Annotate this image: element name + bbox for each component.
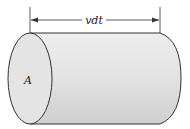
arrowhead-right	[152, 18, 159, 23]
cylinder-body	[30, 33, 181, 124]
length-label: vdt	[85, 14, 103, 27]
arrowhead-left	[31, 18, 38, 23]
cylinder-diagram: vdt A	[0, 0, 190, 129]
area-label: A	[23, 74, 32, 87]
